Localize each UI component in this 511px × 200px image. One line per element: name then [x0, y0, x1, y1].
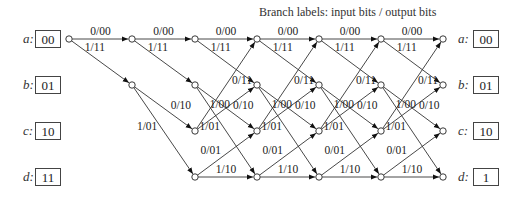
state-node-a: [378, 36, 384, 42]
branch-label: 0/01: [262, 144, 283, 156]
branch-label: 0/00: [216, 25, 237, 37]
branch-label: 1/10: [216, 163, 237, 175]
state-node-a: [254, 36, 260, 42]
branch-label: 0/10: [419, 99, 440, 111]
state-node-d: [378, 174, 384, 180]
state-node-b: [254, 82, 260, 88]
branch-label: 0/10: [171, 99, 192, 111]
state-node-b: [316, 82, 322, 88]
branch-label: 0/10: [233, 99, 254, 111]
state-node-c: [378, 128, 384, 134]
branch-label: 1/10: [340, 163, 361, 175]
branch-label: 0/11: [418, 74, 438, 86]
branch-label: 1/01: [323, 120, 344, 132]
state-node-c: [316, 128, 322, 134]
branch-label: 1/00: [210, 98, 231, 110]
branch-label: 1/01: [199, 120, 220, 132]
branch-label: 1/01: [261, 120, 282, 132]
branch-label: 1/11: [397, 41, 417, 53]
branch-label: 0/01: [324, 144, 345, 156]
trellis-diagram: 0/001/110/001/110/101/010/001/110/101/01…: [0, 0, 511, 200]
trellis-nodes: [66, 36, 446, 180]
branch-label: 1/01: [137, 120, 158, 132]
state-node-b: [192, 82, 198, 88]
state-node-d: [192, 174, 198, 180]
state-node-c: [192, 128, 198, 134]
branch-label: 0/10: [357, 99, 378, 111]
branch-label: 1/00: [334, 98, 355, 110]
branch-label: 1/11: [335, 41, 355, 53]
state-node-b: [129, 82, 135, 88]
state-node-a: [66, 36, 72, 42]
branch-label: 0/00: [402, 25, 423, 37]
state-node-c: [440, 128, 446, 134]
state-node-a: [129, 36, 135, 42]
branch-label: 0/00: [278, 25, 299, 37]
branch-label: 0/00: [90, 25, 111, 37]
branch-label: 0/10: [295, 99, 316, 111]
state-node-b: [440, 82, 446, 88]
state-node-a: [192, 36, 198, 42]
branch-label: 1/11: [273, 41, 293, 53]
branch-label: 0/01: [386, 144, 407, 156]
branch-label: 0/11: [356, 74, 376, 86]
branch-label: 1/10: [278, 163, 299, 175]
branch-label: 0/11: [294, 74, 314, 86]
state-node-a: [316, 36, 322, 42]
branch-label: 1/11: [211, 41, 231, 53]
state-node-a: [440, 36, 446, 42]
state-node-d: [440, 174, 446, 180]
branch-label: 1/00: [272, 98, 293, 110]
state-node-b: [378, 82, 384, 88]
branch-label: 1/11: [148, 41, 168, 53]
branch-labels: 0/001/110/001/110/101/010/001/110/101/01…: [85, 25, 440, 175]
branch-label: 1/01: [385, 120, 406, 132]
branch-label: 0/00: [340, 25, 361, 37]
state-node-c: [254, 128, 260, 134]
branch-label: 0/00: [153, 25, 174, 37]
state-node-d: [254, 174, 260, 180]
branch-label: 0/11: [232, 74, 252, 86]
branch-label: 1/00: [396, 98, 417, 110]
state-node-d: [316, 174, 322, 180]
branch-label: 1/10: [402, 163, 423, 175]
branch-label: 0/01: [200, 144, 221, 156]
branch-label: 1/11: [85, 41, 105, 53]
